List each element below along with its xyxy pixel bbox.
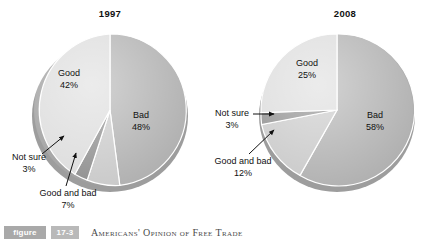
pie-1997-label-bad-text: Bad bbox=[133, 110, 149, 120]
pie-2008-label-not-sure-text: Not sure bbox=[215, 108, 249, 118]
pie-2008-label-not-sure: Not sure 3% bbox=[205, 108, 259, 131]
pie-2008-label-good-text: Good bbox=[296, 58, 318, 68]
pie-2008-label-good-and-bad-pct: 12% bbox=[201, 168, 285, 180]
pie-2008-label-bad-pct: 58% bbox=[356, 122, 394, 134]
pie-1997-label-not-sure-text: Not sure bbox=[12, 152, 46, 162]
figure-caption-title: Americans' Opinion of Free Trade bbox=[91, 227, 243, 238]
pie-1997-label-bad: Bad 48% bbox=[122, 110, 160, 133]
pie-2008-label-good-pct: 25% bbox=[284, 70, 330, 82]
pie-2008-label-not-sure-pct: 3% bbox=[205, 120, 259, 132]
pie-1997-label-good: Good 42% bbox=[46, 68, 92, 91]
pie-1997-label-good-and-bad-text: Good and bad bbox=[39, 188, 96, 198]
pie-2008-label-good-and-bad-text: Good and bad bbox=[214, 156, 271, 166]
pie-1997-label-not-sure-pct: 3% bbox=[2, 164, 56, 176]
figure-badge: figure bbox=[4, 226, 46, 239]
pie-1997-label-bad-pct: 48% bbox=[122, 122, 160, 134]
pie-2008-label-bad-text: Bad bbox=[367, 110, 383, 120]
pie-1997-label-good-text: Good bbox=[58, 68, 80, 78]
chart-title-2008: 2008 bbox=[313, 8, 377, 19]
pie-1997-highlight bbox=[34, 34, 186, 186]
figure-number-badge: 17-3 bbox=[51, 226, 79, 239]
pie-1997-label-good-pct: 42% bbox=[46, 80, 92, 92]
chart-title-1997: 1997 bbox=[78, 8, 142, 19]
pie-1997-label-not-sure: Not sure 3% bbox=[2, 152, 56, 175]
figure-area: 1997 Good 42% Bad 48% bbox=[0, 0, 426, 218]
pie-2008-label-bad: Bad 58% bbox=[356, 110, 394, 133]
pie-1997-label-good-and-bad-pct: 7% bbox=[26, 200, 110, 212]
pie-2008-label-good-and-bad: Good and bad 12% bbox=[201, 156, 285, 179]
pie-1997-label-good-and-bad: Good and bad 7% bbox=[26, 188, 110, 211]
pie-2008-label-good: Good 25% bbox=[284, 58, 330, 81]
figure-caption-bar: figure 17-3 Americans' Opinion of Free T… bbox=[0, 222, 426, 243]
